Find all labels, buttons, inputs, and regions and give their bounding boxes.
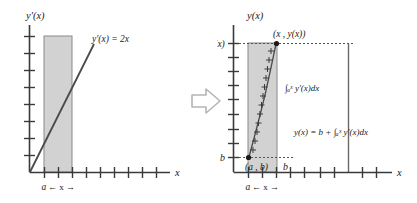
point-a-b-marker [246, 155, 251, 160]
x-tick-label-a: a [246, 182, 251, 192]
x-axis-label: x [396, 167, 402, 178]
shaded-area-rect [44, 36, 72, 172]
figure-container: y′(x) x y′(x) = 2x a ← x → [0, 0, 417, 203]
x-tick-label-a: a [42, 182, 47, 192]
y-tick-label-b: b [220, 152, 225, 163]
b-segment-label: b [283, 161, 288, 172]
x-width-label: ← x → [48, 182, 75, 192]
left-panel-derivative-plot: y′(x) x y′(x) = 2x a ← x → [0, 0, 200, 203]
integral-area-label: ∫ₐˣ y′(x)dx [284, 83, 319, 94]
point-a-b-label: (a , b) [245, 162, 268, 173]
right-arrow-icon [192, 89, 220, 113]
equation-label: y(x) = b + ∫ₐˣ y′(x)dx [293, 127, 368, 138]
x-axis-label: x [174, 167, 180, 178]
point-x-yx-marker [274, 41, 279, 46]
y-axis-label: y′(x) [25, 10, 45, 22]
y-tick-label-yx: y(x) [217, 39, 225, 50]
point-x-yx-label: (x , y(x)) [273, 29, 305, 40]
right-panel-antiderivative-plot: y(x) x y(x) b (x , y(x)) (a , b) b ∫ₐˣ y… [217, 0, 417, 203]
y-axis-label: y(x) [246, 10, 264, 22]
derivative-line-label: y′(x) = 2x [91, 34, 130, 45]
x-width-label: ← x → [252, 182, 279, 192]
